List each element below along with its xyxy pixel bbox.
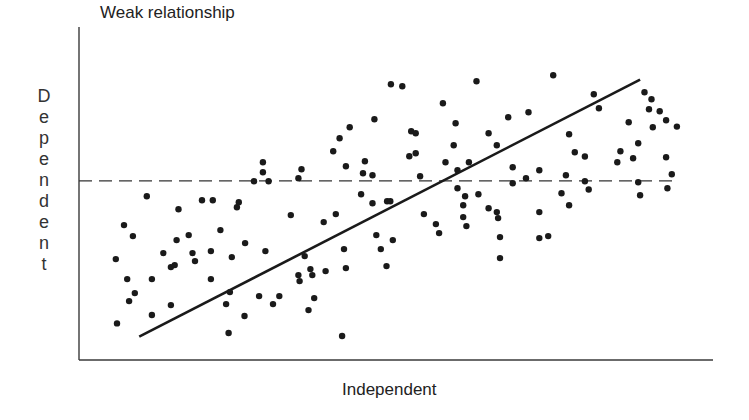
data-point [663,154,669,160]
data-point [172,262,178,268]
data-point [378,246,384,252]
data-point [566,131,572,137]
regression-line [139,80,640,337]
y-label-letter: e [34,212,54,233]
data-point [510,164,516,170]
data-point [452,120,458,126]
data-point [413,150,419,156]
data-point [669,171,675,177]
data-point [333,211,339,217]
data-point [596,105,602,111]
data-point [497,234,503,240]
data-point [343,265,349,271]
data-point [189,250,195,256]
data-point [358,191,364,197]
data-point [566,202,572,208]
data-point [417,173,423,179]
data-point [322,268,328,274]
data-point [168,302,174,308]
data-point [664,185,670,191]
data-point [454,167,460,173]
data-point [463,223,469,229]
data-point [225,330,231,336]
y-label-letter: e [34,107,54,128]
data-point [550,72,556,78]
data-point [563,172,569,178]
data-point [126,298,132,304]
x-axis-label: Independent [342,380,437,400]
data-point [262,248,268,254]
data-point [462,193,468,199]
data-point [460,214,466,220]
data-point [406,153,412,159]
y-label-letter: d [34,191,54,212]
data-point [648,96,654,102]
data-point [558,190,564,196]
data-point [641,89,647,95]
data-point [149,276,155,282]
data-point [307,266,313,272]
data-point [495,215,501,221]
data-point [494,142,500,148]
data-point [572,149,578,155]
data-point [371,116,377,122]
data-point [635,140,641,146]
data-point [475,191,481,197]
data-point [347,124,353,130]
data-point [460,202,466,208]
data-point [242,240,248,246]
data-point [545,233,551,239]
data-point [330,148,336,154]
data-point [657,108,663,114]
data-point [360,170,366,176]
data-point [175,206,181,212]
data-point [510,180,516,186]
data-point [674,123,680,129]
data-point [173,237,179,243]
y-label-letter: e [34,149,54,170]
data-point [436,230,442,236]
data-point [260,169,266,175]
data-point [466,159,472,165]
data-point [302,253,308,259]
data-point [454,185,460,191]
data-point [383,263,389,269]
scatter-chart: Weak relationship Independent D e p e n … [0,0,749,420]
data-point [256,293,262,299]
data-point [387,198,393,204]
data-point [451,142,457,148]
data-point [637,192,643,198]
data-point [130,233,136,239]
data-point [236,199,242,205]
y-label-letter: n [34,170,54,191]
data-point [229,254,235,260]
data-point [369,200,375,206]
data-point [336,135,342,141]
data-point [298,166,304,172]
data-point [421,211,427,217]
data-point [295,272,301,278]
data-point [296,278,302,284]
data-point [485,205,491,211]
data-point [525,109,531,115]
data-point [295,175,301,181]
data-point [210,197,216,203]
data-point [260,159,266,165]
data-point [373,232,379,238]
data-point [149,312,155,318]
trend-line [139,80,640,337]
data-point [113,256,119,262]
data-point [536,209,542,215]
data-point [276,293,282,299]
data-point [646,106,652,112]
data-point [617,148,623,154]
data-point [630,155,636,161]
data-point [582,153,588,159]
data-point [433,221,439,227]
data-point [362,158,368,164]
data-point [223,301,229,307]
data-point [635,179,641,185]
data-point [586,186,592,192]
data-point [650,124,656,130]
data-point [369,172,375,178]
